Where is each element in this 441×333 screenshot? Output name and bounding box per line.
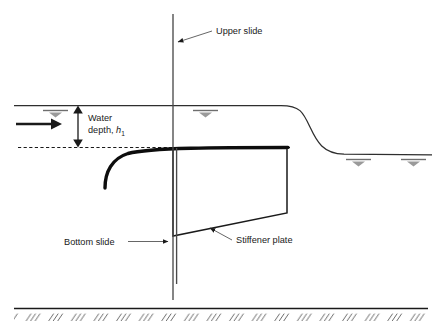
stiffener-plate-label: Stiffener plate xyxy=(236,235,293,245)
flow-direction-arrow xyxy=(16,119,62,130)
water-table-symbol xyxy=(346,160,371,167)
water-table-symbol xyxy=(43,111,68,118)
water-depth-prefix: depth, xyxy=(88,125,116,135)
stiffener-plate-shape xyxy=(173,149,287,237)
stiffener-plate-leader-line xyxy=(210,228,232,240)
water-table-symbol xyxy=(193,111,218,118)
upper-slide-leader-line xyxy=(178,31,212,42)
figure-canvas: Water depth, h1 Upper slide Bottom slide… xyxy=(0,0,441,333)
water-depth-label-line2: depth, h1 xyxy=(88,125,125,137)
ground-hatch-pattern xyxy=(14,309,428,321)
bottom-slide-label: Bottom slide xyxy=(64,237,115,247)
water-depth-label-line1: Water xyxy=(88,113,112,123)
diagram-svg: Water depth, h1 Upper slide Bottom slide… xyxy=(0,0,441,333)
ground-line-group xyxy=(14,309,428,322)
upper-slide-label: Upper slide xyxy=(216,26,262,36)
dimension-double-arrow xyxy=(73,106,83,148)
water-table-symbol xyxy=(401,160,426,167)
water-depth-subscript: 1 xyxy=(121,130,125,137)
